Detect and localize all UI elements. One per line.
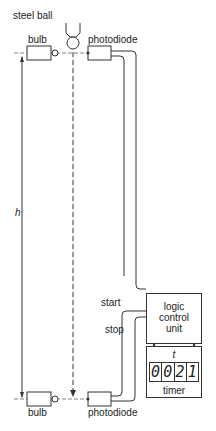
bottom-bulb-label: bulb [28,407,47,418]
timer-display: t 0 0 2 1 timer [146,346,202,398]
start-label: start [101,297,120,308]
logic-control-unit: logic control unit [146,293,202,344]
bottom-photodiode-label: photodiode [88,407,138,418]
height-label: h [15,207,21,218]
steel-ball-label: steel ball [13,10,52,21]
digit: 1 [187,363,198,381]
time-symbol: t [147,349,201,360]
stop-label: stop [105,324,124,335]
lcu-line1: logic [147,301,201,312]
top-bulb-label: bulb [28,34,47,45]
top-photodiode-label: photodiode [88,34,138,45]
digit: 0 [150,363,162,381]
digit: 0 [162,363,174,381]
timer-label: timer [147,385,201,396]
digit: 2 [175,363,187,381]
digit-readout: 0 0 2 1 [149,362,199,382]
lcu-line3: unit [147,323,201,334]
lcu-line2: control [147,312,201,323]
